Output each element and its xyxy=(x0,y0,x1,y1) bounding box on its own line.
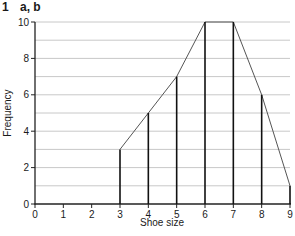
y-tick-label: 10 xyxy=(18,17,30,28)
y-tick-label: 6 xyxy=(23,89,29,100)
frequency-chart: 0123456789 0246810 Shoe size Frequency xyxy=(0,0,295,236)
y-tick-label: 2 xyxy=(23,162,29,173)
x-tick-label: 7 xyxy=(231,209,237,220)
y-tick-label: 4 xyxy=(23,126,29,137)
x-tick-label: 6 xyxy=(202,209,208,220)
x-tick-label: 9 xyxy=(287,209,293,220)
y-tick-label: 0 xyxy=(23,199,29,210)
x-tick-label: 3 xyxy=(117,209,123,220)
x-tick-label: 1 xyxy=(61,209,67,220)
x-axis-label: Shoe size xyxy=(140,217,184,228)
y-axis-ticks: 0246810 xyxy=(18,17,35,210)
x-tick-label: 2 xyxy=(89,209,95,220)
gridlines xyxy=(35,22,290,186)
y-axis-label: Frequency xyxy=(2,89,13,136)
y-tick-label: 8 xyxy=(23,53,29,64)
x-tick-label: 0 xyxy=(32,209,38,220)
x-tick-label: 8 xyxy=(259,209,265,220)
